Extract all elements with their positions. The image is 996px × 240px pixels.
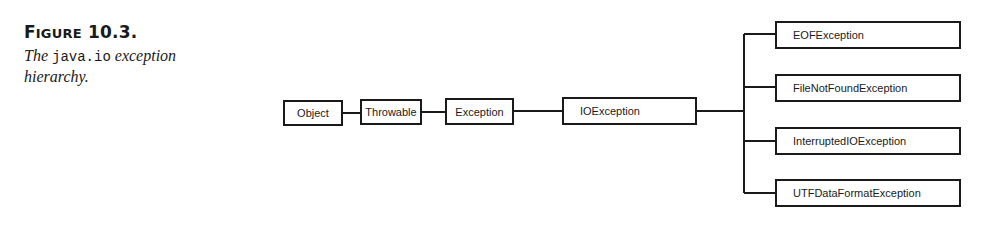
node-label: Object [297, 107, 329, 119]
node-utfdataformatexception: UTFDataFormatException [775, 179, 961, 207]
node-filenotfoundexception: FileNotFoundException [775, 74, 961, 102]
node-ioexception: IOException [562, 97, 697, 125]
node-label: UTFDataFormatException [793, 187, 921, 199]
node-label: Throwable [365, 106, 416, 118]
node-exception: Exception [445, 98, 514, 125]
node-interruptedioexception: InterruptedIOException [775, 127, 961, 155]
node-label: FileNotFoundException [793, 82, 907, 94]
node-object: Object [283, 100, 343, 126]
node-throwable: Throwable [360, 99, 422, 125]
node-label: EOFException [793, 29, 864, 41]
node-label: InterruptedIOException [793, 135, 906, 147]
node-label: Exception [455, 106, 503, 118]
node-eofexception: EOFException [775, 21, 961, 49]
node-label: IOException [580, 105, 640, 117]
